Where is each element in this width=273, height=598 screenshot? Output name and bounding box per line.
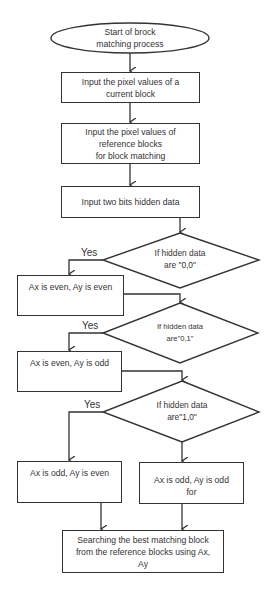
result-odd-odd-line2: for	[186, 486, 196, 498]
start-node: Start of brock matching process	[60, 26, 200, 50]
decision-10-line1: If hidden data	[132, 399, 232, 411]
result-even-odd-label: Ax is even, Ay is odd	[30, 357, 109, 369]
start-line1: Start of brock	[60, 26, 200, 38]
decision-10-yes-label: Yes	[84, 399, 100, 410]
decision-00-yes-label: Yes	[81, 247, 97, 258]
step-reference-blocks: Input the pixel values of reference bloc…	[61, 123, 200, 164]
result-even-even: Ax is even, Ay is even	[17, 275, 124, 316]
step-hidden-data: Input two bits hidden data	[61, 186, 200, 218]
decision-01-line2: are"0,1"	[130, 333, 230, 345]
final-search-line1: Searching the best matching block	[77, 534, 208, 546]
final-search-line2: from the reference blocks using Ax,	[76, 546, 210, 558]
final-search-step: Searching the best matching block from t…	[62, 530, 224, 573]
result-odd-even-label: Ax is odd, Ay is even	[30, 467, 109, 479]
final-search-line3: Ay	[138, 558, 148, 570]
decision-01-text: If hidden data are"0,1"	[130, 321, 230, 345]
result-even-odd: Ax is even, Ay is odd	[17, 351, 122, 392]
decision-10-line2: are"1,0"	[132, 411, 232, 423]
step-reference-blocks-line3: for block matching	[96, 150, 166, 162]
result-even-even-label: Ax is even, Ay is even	[29, 281, 112, 293]
decision-10-text: If hidden data are"1,0"	[132, 399, 232, 423]
step-current-block: Input the pixel values of a current bloc…	[61, 72, 200, 103]
decision-01-line1: If hidden data	[130, 321, 230, 333]
step-reference-blocks-line1: Input the pixel values of	[85, 126, 175, 138]
decision-00-text: If hidden data are "0,0"	[130, 247, 230, 271]
result-odd-odd-line1: Ax is odd, Ay is odd	[154, 474, 229, 486]
step-reference-blocks-line2: reference blocks	[99, 138, 162, 150]
decision-01-yes-label: Yes	[82, 320, 98, 331]
result-odd-even: Ax is odd, Ay is even	[17, 461, 122, 503]
decision-00-line1: If hidden data	[130, 247, 230, 259]
decision-00-line2: are "0,0"	[130, 259, 230, 271]
step-current-block-line2: current block	[106, 88, 155, 100]
start-line2: matching process	[60, 38, 200, 50]
flowchart-canvas: Start of brock matching process Input th…	[0, 0, 273, 598]
result-odd-odd: Ax is odd, Ay is odd for	[139, 462, 244, 504]
step-current-block-line1: Input the pixel values of a	[82, 76, 179, 88]
step-hidden-data-label: Input two bits hidden data	[82, 196, 180, 208]
